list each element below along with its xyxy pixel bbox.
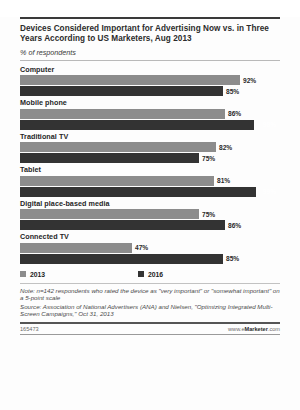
legend-item-2016: 2016 xyxy=(138,271,163,278)
legend-swatch-icon xyxy=(20,271,26,277)
bar-value-label: 86% xyxy=(228,110,241,117)
header-bottom-rule xyxy=(20,60,280,61)
bar-value-label: 81% xyxy=(217,177,230,184)
bar-2013 xyxy=(20,209,199,219)
chart-sheet: Devices Considered Important for Adverti… xyxy=(0,17,300,410)
brand-name: Marketer xyxy=(245,326,268,332)
bar-value-label: 86% xyxy=(228,222,241,229)
bar-row-2016: 98% xyxy=(20,120,280,130)
bar-group-tablet: Tablet 81% 99% xyxy=(20,165,280,197)
bar-group-digital-place-based-media: Digital place-based media 75% 86% xyxy=(20,199,280,231)
bar-group-traditional-tv: Traditional TV 82% 75% xyxy=(20,132,280,164)
bar-group-computer: Computer 92% 85% xyxy=(20,65,280,97)
bar-row-2016: 85% xyxy=(20,254,280,264)
legend-label: 2013 xyxy=(30,271,45,278)
bar-2016 xyxy=(20,220,225,230)
footer-bottom-rule xyxy=(20,334,280,335)
bar-value-label: 47% xyxy=(135,244,148,251)
bar-2013 xyxy=(20,243,132,253)
brand-suffix: .com xyxy=(268,326,280,332)
category-label: Digital place-based media xyxy=(20,199,280,208)
bar-row-2016: 99% xyxy=(20,187,280,197)
bar-value-label: 99% xyxy=(263,188,280,195)
legend-swatch-icon xyxy=(138,271,144,277)
chart-source: Source: Association of National Advertis… xyxy=(20,303,280,318)
bar-2016 xyxy=(20,153,199,163)
chart-legend: 2013 2016 xyxy=(20,271,280,278)
chart-footer: 165473 www.eMarketer.com xyxy=(20,326,280,332)
chart-id: 165473 xyxy=(20,326,39,332)
chart-note: Note: n=142 respondents who rated the de… xyxy=(20,287,280,302)
category-label: Computer xyxy=(20,65,280,74)
bar-row-2013: 47% xyxy=(20,243,280,253)
chart-title: Devices Considered Important for Adverti… xyxy=(20,24,280,45)
bar-row-2016: 86% xyxy=(20,220,280,230)
bar-value-label: 85% xyxy=(226,88,239,95)
legend-item-2013: 2013 xyxy=(20,271,138,278)
chart-subtitle: % of respondents xyxy=(20,48,280,57)
footer-top-rule xyxy=(20,322,280,324)
footnote-top-rule xyxy=(20,283,280,284)
bar-value-label: 85% xyxy=(226,255,239,262)
category-label: Tablet xyxy=(20,165,280,174)
bar-value-label: 75% xyxy=(202,155,215,162)
header-top-rule xyxy=(20,17,280,19)
bar-row-2013: 82% xyxy=(20,142,280,152)
bar-2013 xyxy=(20,142,216,152)
bar-2016 xyxy=(20,187,256,197)
bar-2013 xyxy=(20,75,240,85)
bar-row-2016: 85% xyxy=(20,86,280,96)
bar-value-label: 98% xyxy=(263,121,280,128)
category-label: Mobile phone xyxy=(20,98,280,107)
bar-value-label: 82% xyxy=(219,144,232,151)
brand-prefix: www.e xyxy=(228,326,244,332)
bar-2013 xyxy=(20,176,214,186)
bar-2016 xyxy=(20,120,254,130)
bar-row-2016: 75% xyxy=(20,153,280,163)
bar-row-2013: 92% xyxy=(20,75,280,85)
bar-2016 xyxy=(20,86,223,96)
bar-row-2013: 86% xyxy=(20,109,280,119)
bar-2013 xyxy=(20,109,225,119)
bar-value-label: 92% xyxy=(243,77,256,84)
bar-2016 xyxy=(20,254,223,264)
legend-label: 2016 xyxy=(148,271,163,278)
bar-row-2013: 81% xyxy=(20,176,280,186)
emarketer-brand: www.eMarketer.com xyxy=(228,326,280,332)
bar-chart: Computer 92% 85% Mobile phone 86% 98% xyxy=(20,65,280,264)
category-label: Connected TV xyxy=(20,232,280,241)
bar-value-label: 75% xyxy=(202,211,215,218)
bar-group-mobile-phone: Mobile phone 86% 98% xyxy=(20,98,280,130)
bar-group-connected-tv: Connected TV 47% 85% xyxy=(20,232,280,264)
category-label: Traditional TV xyxy=(20,132,280,141)
bar-row-2013: 75% xyxy=(20,209,280,219)
